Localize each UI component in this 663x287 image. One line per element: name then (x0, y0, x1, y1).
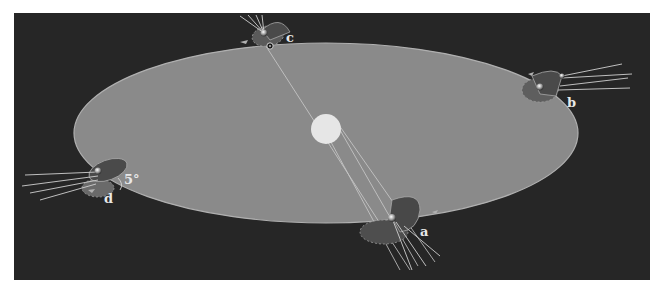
label-b: b (567, 95, 576, 110)
sun (311, 114, 341, 144)
label-c: c (286, 30, 294, 45)
label-d: d (104, 191, 113, 206)
label-a: a (420, 224, 429, 239)
position-c: c (240, 15, 294, 49)
inclination-label: 5° (124, 172, 140, 187)
orbit-diagram: c b 5° d (0, 0, 663, 287)
